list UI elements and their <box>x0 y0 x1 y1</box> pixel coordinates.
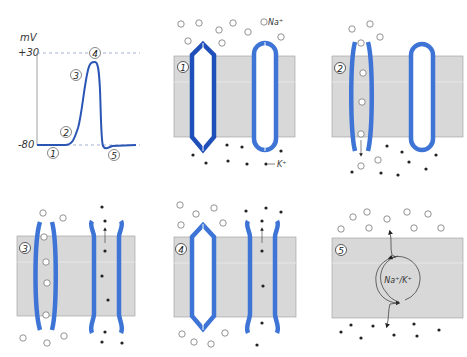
svg-text:3: 3 <box>22 244 28 254</box>
svg-text:4: 4 <box>178 245 184 255</box>
potential-trace <box>37 62 136 148</box>
panel-number-badge: 1 <box>178 62 189 73</box>
potassium-channel-closed <box>254 43 276 150</box>
phase-marker-5: 5 <box>109 150 120 161</box>
y-unit-label: mV <box>20 32 38 43</box>
y-bottom-tick-label: -80 <box>18 139 34 150</box>
potassium-channel-closed <box>411 44 433 150</box>
svg-text:1: 1 <box>50 149 56 159</box>
panel-4-peak: 4 <box>174 202 296 347</box>
sodium-channel-closed <box>192 44 214 150</box>
svg-text:2: 2 <box>337 64 343 74</box>
panel-number-badge: 3 <box>20 243 31 254</box>
phase-marker-1: 1 <box>48 148 59 159</box>
svg-text:4: 4 <box>92 49 98 59</box>
panel-2-depolarization: 2 <box>332 21 463 177</box>
sodium-channel-inactivated <box>192 225 214 329</box>
panel-5-pump: 5 Na⁺/K⁺ <box>332 209 463 340</box>
phase-marker-4: 4 <box>90 48 101 59</box>
pump-label: Na⁺/K⁺ <box>384 276 411 285</box>
svg-text:1: 1 <box>180 63 186 73</box>
potassium-ions <box>339 322 440 339</box>
phase-marker-2: 2 <box>61 127 72 138</box>
svg-text:5: 5 <box>111 151 117 161</box>
panel-number-badge: 5 <box>336 245 347 256</box>
action-potential-diagram: mV +30 -80 1 2 3 4 5 <box>0 0 467 357</box>
potassium-legend-label: K⁺ <box>277 160 286 169</box>
sodium-legend-label: Na⁺ <box>268 18 283 27</box>
svg-text:2: 2 <box>63 128 69 138</box>
y-top-tick-label: +30 <box>18 47 39 58</box>
panel-1-resting: 1 Na⁺ K⁺ <box>174 18 295 169</box>
action-potential-graph: mV +30 -80 1 2 3 4 5 <box>18 32 140 161</box>
panel-number-badge: 2 <box>335 63 346 74</box>
svg-text:3: 3 <box>73 71 79 81</box>
phase-marker-3: 3 <box>71 70 82 81</box>
svg-text:5: 5 <box>338 246 344 256</box>
panel-3-repolarization: 3 <box>17 205 135 346</box>
panel-number-badge: 4 <box>176 244 187 255</box>
sodium-ions <box>338 209 444 232</box>
